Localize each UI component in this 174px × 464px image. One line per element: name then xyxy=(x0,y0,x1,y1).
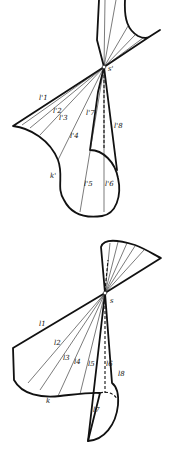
hidden-curve-arc xyxy=(100,392,117,399)
upper-cone-figure: s' k' l'1 l'2 l'3 l'4 l'5 l'6 l'7 l'8 xyxy=(13,0,160,217)
generator-label-7: l7 xyxy=(93,406,100,414)
vertex-marker xyxy=(102,65,106,69)
upper-nappe-outline xyxy=(97,0,160,67)
curve-label: k xyxy=(46,397,50,405)
curve-label: k' xyxy=(50,172,56,180)
generator-label-1: l1 xyxy=(39,320,46,328)
generator-label-4: l'4 xyxy=(70,132,79,140)
generator-label-4: l4 xyxy=(74,358,81,366)
upper-nappe-generators xyxy=(104,0,143,67)
generator-label-1: l'1 xyxy=(39,94,48,102)
vertex-marker xyxy=(103,291,107,295)
cone-diagram: s' k' l'1 l'2 l'3 l'4 l'5 l'6 l'7 l'8 xyxy=(0,0,174,464)
generator-label-7: l'7 xyxy=(86,109,95,117)
generator-label-6: l'6 xyxy=(105,180,114,188)
generator-label-3: l3 xyxy=(63,354,70,362)
generator-label-2: l2 xyxy=(54,339,61,347)
upper-nappe-generators xyxy=(105,242,144,293)
generator-label-5: l'5 xyxy=(84,180,93,188)
generator-label-6: l6 xyxy=(106,360,113,368)
lower-nappe-generators xyxy=(28,293,105,396)
lower-cone-figure: s k l1 l2 l3 l4 l5 l6 l7 l8 xyxy=(13,241,161,441)
generator-label-5: l5 xyxy=(88,360,95,368)
lower-nappe-generators xyxy=(22,67,104,212)
vertex-label: s xyxy=(110,297,114,305)
vertex-label: s' xyxy=(108,65,114,73)
generator-label-3: l'3 xyxy=(59,114,68,122)
lower-nappe-outline xyxy=(13,67,119,217)
generator-label-8: l'8 xyxy=(114,122,123,130)
lower-nappe-right-edge xyxy=(104,67,117,170)
generator-label-8: l8 xyxy=(118,370,125,378)
